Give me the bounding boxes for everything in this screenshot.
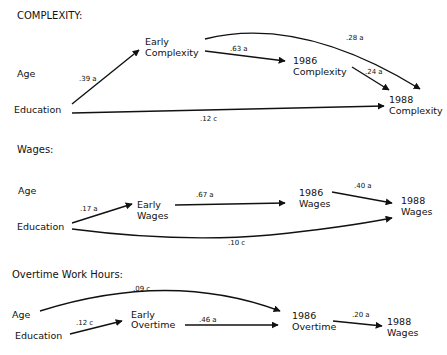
- node-1986-line1: 1986: [299, 187, 323, 198]
- coef-1986-1988: .20 a: [352, 311, 370, 319]
- node-1988-line2: Wages: [401, 206, 432, 217]
- edge-1986-1988: [332, 192, 392, 203]
- coef-education-early: .12 c: [76, 319, 93, 327]
- coef-early-1986: .63 a: [230, 45, 248, 53]
- node-1988-line1: 1988: [401, 195, 425, 206]
- node-1986-line2: Overtime: [292, 321, 336, 332]
- coef-1986-1988: .24 a: [365, 68, 383, 76]
- node-1988-line1: 1988: [389, 94, 413, 105]
- node-1986-line2: Complexity: [293, 66, 347, 77]
- panel-overtime: Overtime Work Hours: Age Education Early…: [12, 269, 418, 341]
- node-education: Education: [14, 104, 61, 115]
- node-1988-line1: 1988: [387, 316, 411, 327]
- node-1988-line2: Wages: [387, 327, 418, 338]
- edge-education-1988: [72, 218, 392, 238]
- panel-title: COMPLEXITY:: [17, 10, 82, 21]
- coef-1986-1988: .40 a: [354, 182, 372, 190]
- panel-title: Wages:: [17, 144, 53, 155]
- coef-early-1986: .46 a: [199, 316, 217, 324]
- edge-age-1986: [40, 291, 280, 312]
- panel-complexity: COMPLEXITY: Age Education Early Complexi…: [14, 10, 443, 123]
- node-early-line2: Overtime: [131, 319, 175, 330]
- coef-age-1986: .09 c: [133, 285, 150, 293]
- node-early-line1: Early: [145, 36, 169, 47]
- node-age: Age: [12, 309, 31, 320]
- path-diagram: COMPLEXITY: Age Education Early Complexi…: [0, 0, 447, 355]
- node-early-line2: Wages: [137, 210, 168, 221]
- node-1986-line2: Wages: [299, 198, 330, 209]
- coef-education-early: .39 a: [79, 75, 97, 83]
- coef-early-1986: .67 a: [196, 191, 214, 199]
- edge-early-1986: [175, 203, 285, 205]
- node-early-line2: Complexity: [145, 47, 199, 58]
- node-age: Age: [18, 185, 37, 196]
- coef-education-1988: .10 c: [228, 239, 245, 247]
- node-education: Education: [17, 221, 64, 232]
- node-1986-line1: 1986: [292, 310, 316, 321]
- node-education: Education: [15, 330, 62, 341]
- node-1988-line2: Complexity: [389, 105, 443, 116]
- coef-education-1988: .12 c: [200, 115, 217, 123]
- coef-education-early: .17 a: [80, 205, 98, 213]
- panel-title: Overtime Work Hours:: [12, 269, 123, 280]
- edge-education-1988: [72, 106, 384, 113]
- panel-wages: Wages: Age Education Early Wages 1986 Wa…: [17, 144, 432, 247]
- node-early-line1: Early: [137, 199, 161, 210]
- node-age: Age: [17, 68, 36, 79]
- coef-early-1988-value: .28 a: [346, 34, 364, 42]
- node-1986-line1: 1986: [293, 55, 317, 66]
- edge-1986-1988: [333, 321, 382, 326]
